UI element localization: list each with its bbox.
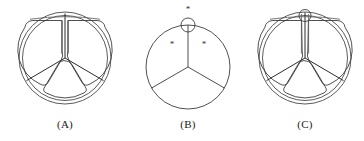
panel-b-drawing: * * * [130,0,246,118]
asterisk-marker-right: * [202,39,207,49]
sector-upper-right-pocket [307,21,352,86]
panel-c-drawing [246,0,364,118]
asterisk-marker-top: * [186,4,191,14]
spoke-lower-right [65,58,104,81]
panel-a-caption: (A) [0,118,130,131]
panel-a: (A) [0,0,130,141]
spoke-lower-left [267,58,306,81]
spoke-lower-left [27,58,66,81]
panel-c: (C) [246,0,364,141]
spoke-lower-right [305,58,344,81]
asterisk-marker-left: * [170,39,175,49]
sector-upper-left-pocket [258,21,303,86]
sector-upper-right-pocket [67,21,112,86]
panel-a-drawing [0,0,130,118]
panel-b-caption: (B) [130,118,246,131]
sector-upper-left-pocket [18,21,63,86]
figure-root: (A) * * * (B) [0,0,364,141]
panel-c-caption: (C) [246,118,364,131]
spoke-lower-left [152,67,188,88]
spoke-lower-right [188,67,224,88]
panel-b: * * * (B) [130,0,246,141]
